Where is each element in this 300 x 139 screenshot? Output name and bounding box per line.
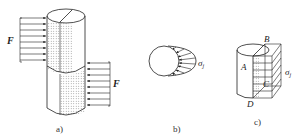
pin-cross-section xyxy=(149,46,179,76)
lower-shear-region xyxy=(60,70,85,116)
panel-a: F F a) xyxy=(6,9,120,134)
mechanics-figure: F F a) σj xyxy=(0,0,300,139)
contact-area xyxy=(253,57,259,97)
stress-label-c: σj xyxy=(285,67,291,78)
stress-label-b: σj xyxy=(198,58,204,69)
force-label-right: F xyxy=(112,78,120,89)
point-D-label: D xyxy=(246,99,254,109)
cylinder xyxy=(47,9,85,116)
point-C-label: C xyxy=(263,79,270,89)
point-B-label: B xyxy=(264,34,270,44)
point-A-label: A xyxy=(240,62,247,72)
caption-a: a) xyxy=(56,124,63,134)
panel-b: σj b) xyxy=(149,46,204,134)
right-force-arrows xyxy=(87,62,110,106)
left-force-arrows xyxy=(20,18,46,62)
force-label-left: F xyxy=(6,35,14,46)
caption-b: b) xyxy=(173,124,181,134)
panel-c: B A C D σj c) xyxy=(237,34,291,127)
caption-c: c) xyxy=(254,117,261,127)
